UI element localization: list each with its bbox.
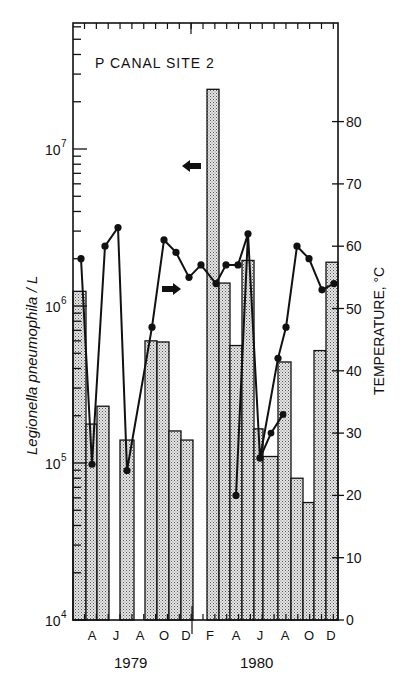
bar [303,503,314,620]
temperature-point [212,280,219,287]
y2-tick-label: 10 [346,550,362,566]
x-tick-label: F [206,628,214,643]
x-tick-label: D [326,628,335,643]
y2-axis-label: TEMPERATURE, °C [371,267,387,395]
bar [263,457,278,620]
bar [181,440,193,620]
y-tick-label: 10 [45,456,61,472]
y2-tick-label: 30 [346,425,362,441]
svg-text:5: 5 [61,452,67,463]
y-tick-label: 10 [45,613,61,629]
y2-tick-label: 50 [346,301,362,317]
temperature-point [282,324,289,331]
bar [219,283,230,620]
temperature-point [244,230,251,237]
temperature-point [148,324,155,331]
temperature-point [88,461,95,468]
temperature-point [305,255,312,262]
y2-tick-label: 40 [346,363,362,379]
x-tick-label: A [136,628,145,643]
y-tick-label: 10 [45,299,61,315]
temperature-point [101,243,108,250]
y2-tick-label: 20 [346,487,362,503]
temperature-point [123,467,130,474]
temperature-point [330,280,337,287]
bar [97,406,109,620]
y2-tick-label: 0 [346,612,354,628]
x-tick-label: D [181,628,190,643]
temperature-point [114,224,121,231]
temperature-point [172,249,179,256]
chart: 10410510610701020304050607080AJAODFAJAOD… [0,0,407,687]
bar [157,342,169,620]
svg-text:4: 4 [61,609,67,620]
temperature-point [293,243,300,250]
year-1980: 1980 [240,654,273,671]
temperature-point [274,355,281,362]
bacteria-bars [73,89,338,620]
temperature-point [234,261,241,268]
x-tick-label: O [159,628,169,643]
temperature-point [318,286,325,293]
temperature-point [222,261,229,268]
temperature-point [160,236,167,243]
bar [291,478,303,620]
bar [145,341,157,620]
chart-title: P CANAL SITE 2 [95,55,215,71]
bar [326,262,338,620]
right-arrow-icon [162,283,181,295]
svg-text:7: 7 [61,138,67,149]
year-1979: 1979 [114,654,147,671]
x-tick-label: J [113,628,120,643]
y2-tick-label: 60 [346,238,362,254]
y2-tick-label: 70 [346,176,362,192]
y-axis-label: Legionella pneumophila / L [23,276,40,455]
bar [278,362,291,620]
bar [169,431,181,620]
temperature-point [197,261,204,268]
temperature-point [232,492,239,499]
x-tick-label: A [232,628,241,643]
x-tick-label: J [257,628,264,643]
x-tick-label: O [304,628,314,643]
bar [314,351,326,620]
y-tick-label: 10 [45,142,61,158]
temperature-point [185,274,192,281]
left-arrow-icon [182,160,201,172]
x-tick-label: A [281,628,290,643]
x-tick-label: A [88,628,97,643]
bar [207,89,219,620]
y2-tick-label: 80 [346,114,362,130]
svg-text:6: 6 [61,295,67,306]
